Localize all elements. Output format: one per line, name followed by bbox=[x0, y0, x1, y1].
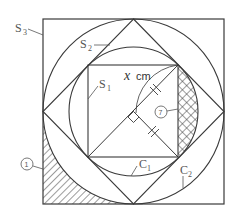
region-7-label: 7 bbox=[159, 109, 163, 116]
label-s2: S bbox=[80, 37, 87, 51]
nested-shapes-diagram: x cm S 3 S 2 S 1 C 1 C 2 1 7 bbox=[0, 0, 236, 218]
radius-segment bbox=[134, 112, 179, 158]
c1-leader bbox=[131, 166, 137, 176]
label-c2-sub: 2 bbox=[188, 170, 192, 179]
label-c2: C bbox=[180, 163, 188, 177]
equal-tick-marks-upper bbox=[150, 84, 161, 95]
label-s1-sub: 1 bbox=[107, 84, 111, 93]
label-s3: S bbox=[15, 21, 22, 35]
region-7-leader bbox=[167, 109, 178, 111]
length-variable: x bbox=[123, 68, 131, 83]
region-1-label: 1 bbox=[25, 161, 29, 168]
label-c1: C bbox=[139, 157, 147, 171]
label-c1-sub: 1 bbox=[147, 164, 151, 173]
right-angle-marker bbox=[128, 112, 139, 123]
length-unit: cm bbox=[136, 70, 151, 82]
s3-leader bbox=[28, 29, 43, 35]
label-s2-sub: 2 bbox=[88, 44, 92, 53]
s1-leader bbox=[88, 86, 98, 99]
label-s3-sub: 3 bbox=[23, 28, 27, 37]
region-1-leader bbox=[33, 166, 43, 169]
label-s1: S bbox=[99, 77, 106, 91]
